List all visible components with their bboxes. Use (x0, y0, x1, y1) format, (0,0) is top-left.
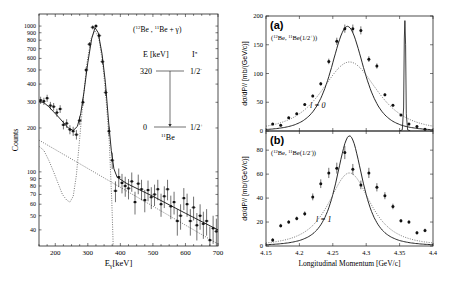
y-tick-label: 600 (27, 55, 36, 61)
data-point (124, 185, 126, 187)
data-point (121, 182, 123, 184)
data-point (101, 61, 103, 63)
data-point (391, 205, 394, 208)
y-axis-label: dσ/dP// [mb/(GeV/c)] (241, 41, 249, 105)
data-point (271, 239, 274, 242)
x-tick-label: 4.2 (295, 249, 303, 256)
data-point (287, 221, 290, 224)
data-point (163, 195, 165, 197)
data-point (319, 82, 322, 85)
figure: 2003004005006007004050607080901002003004… (0, 0, 450, 281)
data-point (375, 186, 378, 189)
panel-b-momentum-plot: 020406080dσ/dP// [mb/(GeV/c)](b)(12Be, 1… (241, 131, 438, 268)
level-spin-header: Iπ (192, 50, 198, 59)
y-tick-label: 150 (253, 41, 263, 48)
data-point (202, 223, 204, 225)
data-point (72, 130, 74, 132)
level-energy-0: 0 (143, 123, 147, 132)
data-point (279, 124, 282, 127)
x-tick-label: 4.15 (260, 249, 271, 256)
data-point (59, 108, 61, 110)
data-point (150, 196, 152, 198)
reaction-annotation: (12Be, 11Be(1/2-)) (271, 149, 316, 158)
data-point (66, 122, 68, 124)
data-point (179, 215, 181, 217)
data-point (279, 224, 282, 227)
y-tick-label: 40 (257, 194, 264, 201)
reaction-annotation: (12Be , 11Be + γ) (133, 25, 182, 34)
data-point (43, 100, 45, 102)
data-point (343, 27, 346, 30)
data-point (209, 239, 211, 241)
data-point (49, 104, 51, 106)
y-tick-label: 50 (257, 98, 264, 105)
panel-a-momentum-plot: 050100150200dσ/dP// [mb/(GeV/c)](a)(12Be… (241, 12, 433, 134)
y-tick-label: 1000 (24, 23, 36, 29)
data-point (423, 128, 426, 131)
x-tick-label: 700 (213, 249, 224, 257)
data-point (75, 134, 77, 136)
y-tick-label: 400 (27, 81, 36, 87)
data-point (131, 180, 133, 182)
y-tick-label: 500 (27, 67, 36, 73)
y-tick-label: 300 (27, 99, 36, 105)
data-point (183, 197, 185, 199)
level-spin-320: 1/2- (190, 67, 202, 76)
data-point (192, 206, 194, 208)
data-point (215, 230, 217, 232)
data-point (399, 113, 402, 116)
y-tick-label: 100 (253, 70, 263, 77)
data-point (415, 231, 418, 234)
y-tick-label: 200 (253, 12, 263, 19)
data-point (160, 203, 162, 205)
calculation-dotted-curve (266, 173, 433, 243)
y-tick-label: 60 (257, 170, 264, 177)
data-point (111, 159, 113, 161)
x-tick-label: 400 (115, 249, 126, 257)
data-point (173, 201, 175, 203)
data-point (343, 151, 346, 154)
data-point (311, 195, 314, 198)
data-point (69, 128, 71, 130)
data-point (82, 101, 84, 103)
data-point (375, 65, 378, 68)
y-tick-label: 0 (260, 127, 263, 134)
left-gamma-spectrum-plot: 2003004005006007004050607080901002003004… (11, 14, 224, 269)
data-point (153, 193, 155, 195)
x-tick-label: 200 (50, 249, 61, 257)
data-point (335, 167, 338, 170)
data-point (287, 116, 290, 119)
data-point (415, 125, 418, 128)
x-axis-label: Longitudinal Momentum [GeV/c] (298, 259, 400, 268)
data-point (303, 212, 306, 215)
data-point (367, 171, 370, 174)
x-tick-label: 300 (83, 249, 94, 257)
data-point (295, 112, 298, 115)
panel-label: (a) (270, 19, 284, 31)
data-point (295, 217, 298, 220)
y-axis-label: Counts (11, 129, 20, 152)
data-point (212, 227, 214, 229)
data-point (53, 106, 55, 108)
data-point (189, 220, 191, 222)
x-tick-label: 4.25 (327, 249, 338, 256)
data-point (157, 188, 159, 190)
data-point (79, 119, 81, 121)
data-point (359, 29, 362, 32)
x-tick-label: 4.4 (429, 249, 438, 256)
x-tick-label: 4.3 (362, 249, 370, 256)
data-point (359, 183, 362, 186)
data-point (137, 183, 139, 185)
y-tick-label: 50 (30, 213, 36, 219)
level-energy-320: 320 (140, 67, 152, 76)
x-tick-label: 500 (148, 249, 159, 257)
panel-label: (b) (270, 134, 284, 146)
x-tick-label: 600 (180, 249, 191, 257)
data-point (423, 229, 426, 232)
data-point (56, 111, 58, 113)
data-point (40, 99, 42, 101)
data-point (399, 219, 402, 222)
data-point (186, 203, 188, 205)
level-energy-header: E [keV] (143, 50, 169, 59)
data-point (407, 221, 410, 224)
